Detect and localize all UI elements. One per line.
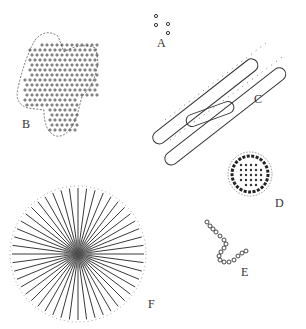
label-b: B xyxy=(22,117,30,132)
label-a: A xyxy=(157,36,166,51)
panel-f-rosette xyxy=(10,186,146,322)
label-e: E xyxy=(241,265,248,280)
label-c: C xyxy=(254,92,262,107)
panel-e-chain xyxy=(205,220,248,264)
figure-illustration xyxy=(0,0,306,329)
panel-a-cocci xyxy=(154,14,169,34)
panel-c-rods xyxy=(150,40,288,168)
label-f: F xyxy=(148,297,155,312)
label-d: D xyxy=(275,196,284,211)
panel-d-cluster xyxy=(228,152,272,196)
